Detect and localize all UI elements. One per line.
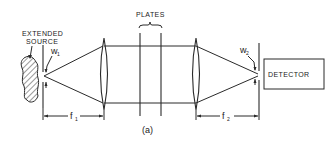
f1-label: f bbox=[70, 111, 73, 121]
f2-subscript: 2 bbox=[227, 116, 230, 122]
figure-caption: (a) bbox=[142, 125, 153, 135]
ray-out-bottom bbox=[196, 76, 258, 103]
extended-source bbox=[21, 56, 38, 102]
f2-label: f bbox=[222, 111, 225, 121]
optical-setup-diagram: EXTENDED SOURCE w 1 PLATES w 2 DETECTOR bbox=[0, 0, 331, 147]
w1-subscript: 1 bbox=[57, 51, 60, 57]
w1-arrow-top-icon bbox=[45, 69, 48, 73]
f1-arrow-left-icon bbox=[44, 115, 48, 118]
detector-label: DETECTOR bbox=[268, 71, 310, 78]
f2-arrow-right-icon bbox=[254, 115, 258, 118]
plates-brace bbox=[139, 22, 162, 28]
collimating-lens bbox=[101, 38, 108, 110]
f1-arrow-right-icon bbox=[99, 115, 103, 118]
ray-in-bottom bbox=[44, 76, 103, 103]
focusing-lens bbox=[193, 38, 200, 110]
source-label-line2: SOURCE bbox=[26, 38, 58, 45]
w2-arrow-top-icon bbox=[254, 67, 257, 71]
f2-arrow-left-icon bbox=[197, 115, 201, 118]
plates-label: PLATES bbox=[136, 11, 165, 18]
w2-subscript: 2 bbox=[246, 50, 249, 56]
f1-subscript: 1 bbox=[75, 116, 78, 122]
source-label-line1: EXTENDED bbox=[22, 30, 63, 37]
